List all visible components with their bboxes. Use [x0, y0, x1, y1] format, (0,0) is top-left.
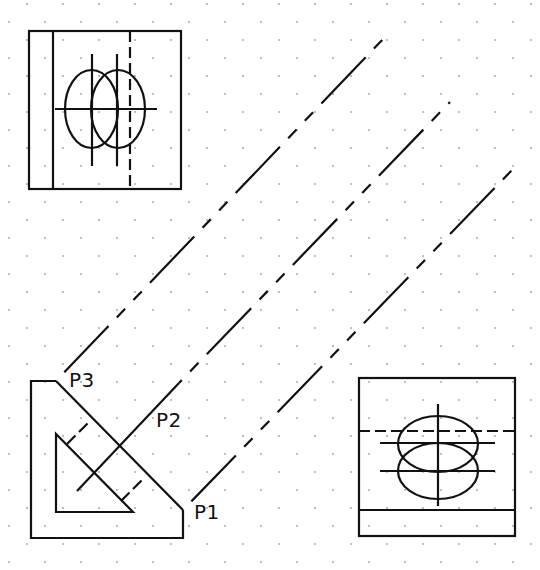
dot-grid [0, 0, 540, 570]
label-p1: P1 [194, 502, 220, 522]
label-p2: P2 [156, 410, 182, 430]
drawing-canvas [0, 0, 540, 570]
label-p3: P3 [69, 370, 95, 390]
